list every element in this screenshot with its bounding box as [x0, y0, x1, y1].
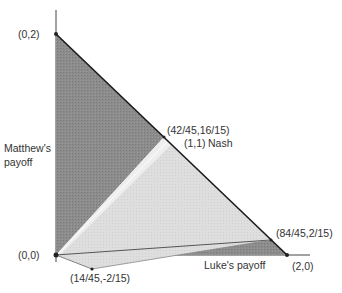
y-axis-label-line2: payoff	[4, 156, 32, 168]
point-top	[54, 32, 58, 36]
label-lower-right: (84/45,2/15)	[276, 227, 333, 239]
label-point-origin: (0,0)	[18, 249, 40, 261]
label-nash-point: (1,1)	[184, 137, 206, 149]
label-nash: Nash	[208, 137, 233, 149]
y-axis-label-line1: Matthew's	[4, 142, 51, 154]
payoff-diagram	[0, 0, 342, 293]
point-origin	[54, 253, 59, 258]
point-lower-left	[90, 267, 93, 270]
label-point-right: (2,0)	[292, 260, 314, 272]
label-lower-left: (14/45,-2/15)	[70, 272, 130, 284]
point-upper-kink	[163, 136, 166, 139]
label-point-top: (0,2)	[18, 28, 40, 40]
label-upper-kink: (42/45,16/15)	[167, 124, 229, 136]
x-axis-label: Luke's payoff	[204, 259, 265, 271]
point-right	[285, 253, 289, 257]
point-lower-right	[270, 239, 273, 242]
